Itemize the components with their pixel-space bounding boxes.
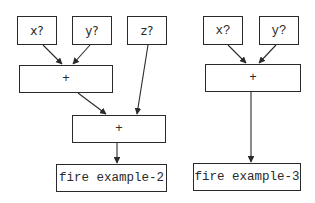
input-node-y-right: y?	[259, 16, 299, 45]
node-label: y?	[271, 24, 286, 38]
node-label: x?	[30, 24, 43, 38]
input-node-x-right: x?	[203, 16, 243, 45]
edge-y-to-plus1-right	[259, 45, 276, 63]
output-node-fire-example-3: fire example-3	[193, 163, 301, 191]
node-label: y?	[85, 24, 98, 38]
input-node-y: y?	[72, 16, 112, 45]
node-label: z?	[141, 24, 154, 38]
plus-node-1: +	[19, 65, 113, 93]
input-node-x: x?	[17, 16, 57, 45]
edge-z-to-plus2	[137, 45, 148, 114]
plus-node-2: +	[72, 115, 166, 143]
edge-plus1-to-plus2	[78, 93, 106, 114]
node-label: x?	[215, 24, 230, 38]
input-node-z: z?	[127, 16, 167, 45]
edge-x-to-plus1-right	[228, 45, 246, 63]
dataflow-diagram: x? y? z? + + fire example-2 x? y? + fire…	[0, 0, 315, 203]
node-label: fire example-2	[59, 171, 164, 185]
node-label: fire example-3	[194, 170, 299, 184]
edge-y-to-plus1	[73, 45, 90, 64]
node-label: +	[62, 72, 70, 86]
edge-x-to-plus1	[43, 45, 62, 64]
plus-node-right: +	[205, 64, 301, 92]
node-label: +	[249, 71, 257, 85]
node-label: +	[115, 122, 123, 136]
output-node-fire-example-2: fire example-2	[56, 164, 167, 192]
